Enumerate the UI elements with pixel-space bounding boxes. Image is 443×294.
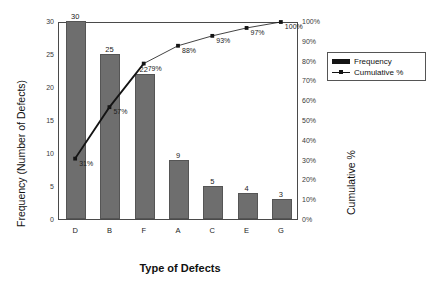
x-tick-g: G: [266, 226, 296, 235]
bar-value-label: 25: [94, 45, 124, 54]
bar-value-label: 5: [197, 177, 227, 186]
cumulative-value-label: 57%: [113, 108, 127, 115]
legend-label-cumulative: Cumulative %: [354, 68, 403, 77]
x-tick-b: B: [94, 226, 124, 235]
cumulative-value-label: 100%: [285, 23, 303, 30]
y-tick-right: 30%: [302, 157, 332, 164]
bar-value-label: 30: [60, 12, 90, 21]
bar-f: [135, 74, 155, 219]
y-tick-right: 10%: [302, 196, 332, 203]
x-tick-a: A: [163, 226, 193, 235]
bar-d: [66, 21, 86, 219]
y-tick-left: 5: [32, 183, 54, 190]
legend-label-frequency: Frequency: [354, 57, 392, 66]
cumulative-value-label: 88%: [182, 47, 196, 54]
cumulative-value-label: 97%: [251, 29, 265, 36]
cumulative-value-label: 31%: [79, 160, 93, 167]
x-tick-c: C: [197, 226, 227, 235]
y-tick-left: 10: [32, 150, 54, 157]
y-tick-left: 30: [32, 18, 54, 25]
bar-e: [238, 193, 258, 219]
y-tick-right: 50%: [302, 117, 332, 124]
bar-a: [169, 160, 189, 219]
legend-item-cumulative: Cumulative %: [332, 67, 421, 78]
bar-g: [272, 199, 292, 219]
bar-value-label: 9: [163, 151, 193, 160]
bar-value-label: 4: [232, 184, 262, 193]
x-tick-d: D: [60, 226, 90, 235]
y-tick-right: 90%: [302, 38, 332, 45]
y-tick-left: 20: [32, 84, 54, 91]
legend-item-frequency: Frequency: [332, 56, 421, 67]
y-axis-left-title: Frequency (Number of Defects): [15, 80, 27, 227]
y-tick-right: 40%: [302, 137, 332, 144]
line-marker-icon: [332, 69, 350, 76]
x-axis-title: Type of Defects: [60, 262, 300, 274]
y-tick-right: 0%: [302, 216, 332, 223]
bar-c: [203, 186, 223, 219]
bar-swatch-icon: [332, 59, 350, 64]
y-tick-right: 20%: [302, 176, 332, 183]
cumulative-value-label: 79%: [148, 65, 162, 72]
bar-b: [100, 54, 120, 219]
pareto-chart: Frequency (Number of Defects) Cumulative…: [0, 0, 443, 294]
bar-value-label: 3: [266, 190, 296, 199]
y-tick-right: 100%: [302, 18, 332, 25]
y-axis-right-title: Cumulative %: [345, 150, 357, 215]
x-tick-e: E: [232, 226, 262, 235]
chart-legend: Frequency Cumulative %: [327, 52, 426, 81]
y-tick-left: 15: [32, 117, 54, 124]
y-tick-left: 25: [32, 51, 54, 58]
x-tick-f: F: [129, 226, 159, 235]
y-tick-right: 60%: [302, 97, 332, 104]
cumulative-value-label: 93%: [216, 37, 230, 44]
y-tick-left: 0: [32, 216, 54, 223]
